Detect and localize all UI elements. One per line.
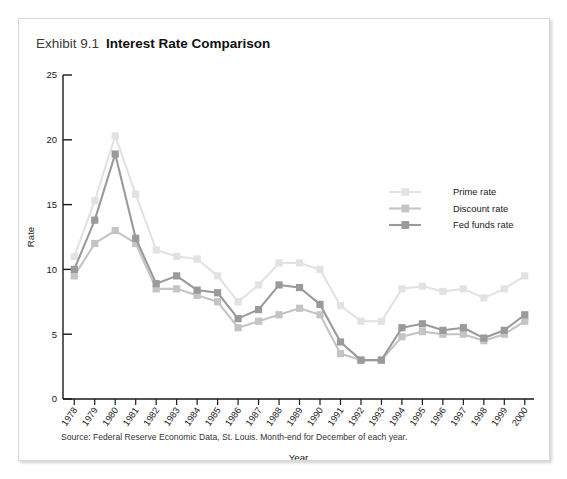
- x-axis-tick-label: 1993: [367, 405, 387, 427]
- x-axis-tick-label: 1999: [490, 405, 510, 427]
- series-point-marker: [460, 285, 467, 292]
- series-point-marker: [91, 217, 98, 224]
- series-point-marker: [357, 357, 364, 364]
- series-point-marker: [112, 132, 119, 139]
- y-axis-tick-label: 5: [52, 329, 57, 340]
- x-axis-tick-label: 1982: [141, 405, 161, 427]
- x-axis-tick-label: 1996: [428, 405, 448, 427]
- series-point-marker: [255, 281, 262, 288]
- x-axis-tick-label: 1984: [182, 405, 202, 427]
- series-point-marker: [460, 324, 467, 331]
- series-point-marker: [234, 315, 241, 322]
- series-point-marker: [91, 197, 98, 204]
- x-axis-tick-label: 1988: [264, 405, 284, 427]
- series-point-marker: [234, 298, 241, 305]
- series-point-marker: [132, 235, 139, 242]
- series-point-marker: [501, 327, 508, 334]
- series-point-marker: [173, 272, 180, 279]
- series-point-marker: [521, 272, 528, 279]
- x-axis-tick-label: 1995: [408, 405, 428, 427]
- series-point-marker: [91, 240, 98, 247]
- legend-label: Discount rate: [453, 203, 508, 214]
- series-point-marker: [460, 331, 467, 338]
- series-point-marker: [112, 150, 119, 157]
- x-axis-tick-label: 2000: [510, 405, 530, 427]
- legend-swatch-marker: [401, 221, 409, 229]
- x-axis-tick-label: 1985: [203, 405, 223, 427]
- series-point-marker: [521, 318, 528, 325]
- x-axis-tick-label: 1998: [469, 405, 489, 427]
- x-axis-tick-label: 1980: [100, 405, 120, 427]
- y-axis-tick-label: 0: [52, 393, 57, 404]
- series-point-marker: [316, 301, 323, 308]
- series-point-marker: [234, 324, 241, 331]
- y-axis-tick-label: 10: [46, 264, 57, 275]
- series-point-marker: [275, 281, 282, 288]
- series-point-marker: [480, 334, 487, 341]
- series-point-marker: [398, 285, 405, 292]
- series-point-marker: [173, 285, 180, 292]
- series-point-marker: [378, 357, 385, 364]
- series-point-marker: [71, 272, 78, 279]
- series-point-marker: [439, 327, 446, 334]
- series-point-marker: [398, 324, 405, 331]
- series-point-marker: [153, 246, 160, 253]
- series-point-marker: [214, 289, 221, 296]
- x-axis-tick-label: 1992: [346, 405, 366, 427]
- series-point-marker: [255, 306, 262, 313]
- x-axis-tick-label: 1979: [80, 405, 100, 427]
- x-axis-tick-label: 1989: [285, 405, 305, 427]
- series-point-marker: [480, 294, 487, 301]
- series-point-marker: [316, 311, 323, 318]
- series-point-marker: [337, 338, 344, 345]
- x-axis-title: Year: [289, 452, 309, 461]
- x-axis-tick-label: 1987: [244, 405, 264, 427]
- series-point-marker: [173, 253, 180, 260]
- series-point-marker: [357, 318, 364, 325]
- interest-rate-line-chart: 0510152025Rate19781979198019811982198319…: [19, 19, 550, 461]
- series-point-marker: [71, 266, 78, 273]
- series-point-marker: [296, 284, 303, 291]
- series-point-marker: [296, 259, 303, 266]
- series-point-marker: [275, 311, 282, 318]
- series-point-marker: [214, 298, 221, 305]
- series-point-marker: [112, 227, 119, 234]
- series-point-marker: [71, 253, 78, 260]
- series-point-marker: [419, 320, 426, 327]
- legend-label: Prime rate: [453, 186, 496, 197]
- series-point-marker: [194, 255, 201, 262]
- x-axis-tick-label: 1997: [449, 405, 469, 427]
- legend-swatch-marker: [401, 188, 409, 196]
- legend-label: Fed funds rate: [453, 219, 513, 230]
- series-point-marker: [214, 272, 221, 279]
- y-axis-tick-label: 15: [46, 199, 57, 210]
- series-point-marker: [419, 283, 426, 290]
- x-axis-tick-label: 1990: [305, 405, 325, 427]
- series-point-marker: [439, 288, 446, 295]
- series-point-marker: [296, 305, 303, 312]
- series-point-marker: [378, 318, 385, 325]
- x-axis-tick-label: 1994: [387, 405, 407, 427]
- series-point-marker: [153, 280, 160, 287]
- series-point-marker: [337, 350, 344, 357]
- series-point-marker: [275, 259, 282, 266]
- exhibit-card: Exhibit 9.1Interest Rate Comparison 0510…: [18, 18, 550, 461]
- series-point-marker: [194, 287, 201, 294]
- y-axis-tick-label: 20: [46, 134, 57, 145]
- y-axis-title: Rate: [25, 227, 36, 247]
- series-point-marker: [337, 302, 344, 309]
- source-note: Source: Federal Reserve Economic Data, S…: [61, 432, 407, 442]
- legend-swatch-marker: [401, 205, 409, 213]
- series-point-marker: [521, 311, 528, 318]
- series-point-marker: [398, 333, 405, 340]
- series-point-marker: [132, 191, 139, 198]
- series-point-marker: [501, 285, 508, 292]
- y-axis-tick-label: 25: [46, 69, 57, 80]
- x-axis-tick-label: 1978: [59, 405, 79, 427]
- x-axis-tick-label: 1991: [326, 405, 346, 427]
- x-axis-tick-label: 1981: [121, 405, 141, 427]
- series-point-marker: [316, 266, 323, 273]
- series-point-marker: [255, 318, 262, 325]
- series-point-marker: [419, 328, 426, 335]
- x-axis-tick-label: 1983: [162, 405, 182, 427]
